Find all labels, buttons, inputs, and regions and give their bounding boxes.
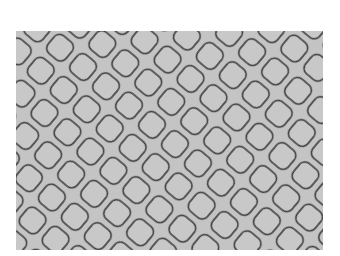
scale-texture-image bbox=[16, 31, 323, 250]
scale-pattern bbox=[16, 31, 323, 250]
